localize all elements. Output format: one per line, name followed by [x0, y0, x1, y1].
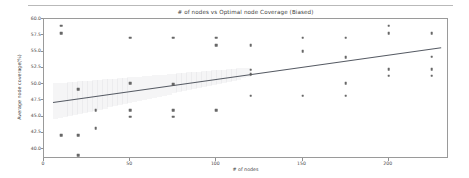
scatter-point: [129, 37, 132, 40]
scatter-point: [301, 37, 304, 40]
chart-title: # of nodes vs Optimal node Coverage (Bia…: [43, 8, 448, 16]
scatter-point: [129, 115, 132, 118]
y-tick-label: 60.0: [17, 16, 41, 21]
x-tick-label: 200: [383, 161, 392, 166]
header-divider: [28, 5, 453, 6]
x-tick-label: 50: [126, 161, 132, 166]
scatter-point: [430, 32, 433, 35]
scatter-point: [215, 109, 218, 112]
scatter-point: [344, 95, 347, 98]
scatter-point: [430, 55, 433, 58]
scatter-point: [344, 37, 347, 40]
x-tick-label: 150: [297, 161, 306, 166]
scatter-point: [301, 95, 304, 98]
scatter-point: [250, 44, 253, 47]
plot-area: [43, 18, 448, 158]
scatter-point: [60, 134, 63, 137]
scatter-point: [129, 82, 132, 85]
scatter-point: [250, 73, 253, 76]
scatter-point: [215, 37, 218, 40]
scatter-point: [172, 83, 175, 86]
scatter-point: [172, 115, 175, 118]
scatter-point: [77, 88, 80, 91]
scatter-point: [77, 134, 80, 137]
scatter-point: [94, 127, 97, 130]
scatter-point: [387, 68, 390, 71]
chart-figure: # of nodes vs Optimal node Coverage (Bia…: [0, 0, 469, 178]
scatter-point: [77, 154, 80, 157]
scatter-point: [387, 24, 390, 27]
scatter-point: [250, 68, 253, 71]
scatter-point: [430, 74, 433, 77]
scatter-point: [387, 32, 390, 35]
x-tick-label: 0: [42, 161, 45, 166]
scatter-point: [60, 24, 63, 27]
plot-inner: [44, 19, 447, 157]
scatter-point: [172, 37, 175, 40]
scatter-point: [430, 68, 433, 71]
scatter-point: [215, 44, 218, 47]
scatter-point: [344, 56, 347, 59]
scatter-point: [94, 109, 97, 112]
scatter-point: [129, 109, 132, 112]
x-tick-label: 100: [211, 161, 220, 166]
scatter-point: [172, 109, 175, 112]
scatter-point: [301, 50, 304, 53]
x-axis-title: # of nodes: [43, 167, 448, 173]
y-axis-title: Average node coverage(%): [17, 27, 23, 147]
scatter-point: [387, 74, 390, 77]
scatter-point: [250, 95, 253, 98]
scatter-point: [60, 32, 63, 35]
scatter-point: [344, 82, 347, 85]
